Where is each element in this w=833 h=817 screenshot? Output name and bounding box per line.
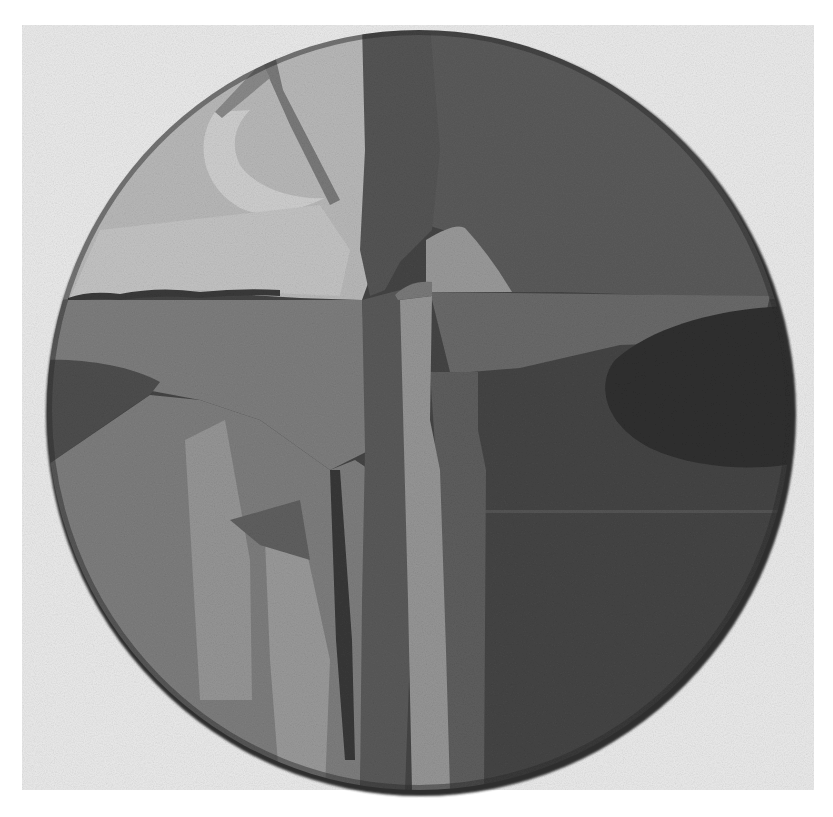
horizon-line-lower <box>480 510 800 513</box>
painting-photograph: Grayscale photograph of a round abstract… <box>0 0 833 817</box>
tondo-painting <box>0 0 833 817</box>
